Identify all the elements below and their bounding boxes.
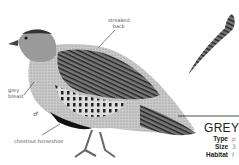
field-value: p	[232, 135, 236, 143]
field-value: 3	[232, 143, 236, 151]
field-name: Type	[188, 135, 228, 143]
label-line: back	[108, 23, 130, 29]
species-fields: Type p Size 3 Habitat f	[188, 135, 236, 159]
label-chestnut-horseshoe: chestnut horseshoe	[14, 138, 63, 144]
field-row: Type p	[188, 135, 236, 143]
field-row: Habitat f	[188, 151, 236, 159]
male-symbol: ♂	[33, 111, 38, 117]
label-grey-breast: grey breast	[8, 87, 24, 99]
field-name: Size	[188, 143, 228, 151]
species-title: GREY	[204, 121, 239, 135]
label-line: breast	[8, 93, 24, 99]
field-name: Habitat	[188, 151, 228, 159]
label-streaked-back: streaked back	[108, 17, 130, 29]
field-value: f	[232, 151, 234, 159]
field-row: Size 3	[188, 143, 236, 151]
